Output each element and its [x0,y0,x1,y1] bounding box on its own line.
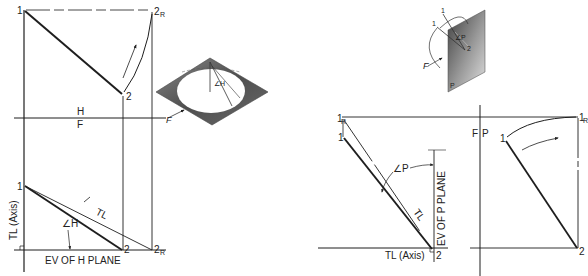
label-point-1-side: 1 [500,133,506,144]
angle-p-leader-right [410,165,433,168]
label-point-2r-sub-front: R [160,249,165,256]
pictorial-angle-label: ∠H [214,80,225,87]
fold-line-fp: F P [472,105,489,276]
line-1r-2-true-length [344,120,432,249]
front-view-right: 1 R 1 2 ∠P TL EV OF P PLANE TL (Axis) [318,113,448,262]
label-point-1-top: 1 [17,5,23,16]
left-figure: 1 2 2 R H F ∠H F [8,5,268,272]
right-figure: 1 1 2 ∠P F P F P 1 [318,7,588,276]
pictorial-direction-label: F [166,115,172,125]
revolution-arc [124,14,152,92]
line-1-2r-true-length [25,186,152,250]
axis-label: TL (Axis) [8,200,19,240]
pictorial-label-2: 2 [467,45,471,52]
line-1-2-top [25,11,122,94]
rotation-arrow-icon-right [522,138,558,150]
ev-h-plane-label: EV OF H PLANE [45,255,121,266]
label-point-2-top: 2 [126,91,132,102]
angle-tick [84,197,90,202]
fold-label-p: P [482,128,489,139]
rotation-arrow-icon [123,45,136,78]
front-view: 1 2 2 R TL ∠H TL (Axis) EV OF H PLANE [8,181,166,266]
line-1-2-front-right [344,138,432,249]
fold-line-hf: H F [14,106,166,130]
tl-label: TL [94,206,110,221]
pictorial-label-1: 1 [432,20,436,27]
label-point-2-front-right: 2 [436,250,442,261]
label-point-1r-sub-front: R [341,118,346,125]
pictorial-horizontal-plate: ∠H F [156,58,268,125]
angle-h-label: ∠H [62,218,78,229]
label-point-2-front: 2 [124,244,130,255]
revolution-arc-right [507,117,576,137]
pictorial-vertical-plane: 1 1 2 ∠P F P [423,7,485,92]
angle-h-leader-arrow [68,230,70,249]
plane-p-label: P [450,82,455,89]
pictorial-direction-label-right: F [423,61,429,71]
fold-label-f: F [77,119,83,130]
ev-p-plane-label: EV OF P PLANE [436,171,447,246]
pictorial-label-1r: 1 [441,7,445,14]
top-view: 1 2 2 R [17,5,165,272]
angle-p-label: ∠P [393,163,409,174]
direction-arrow-icon-right [428,58,442,66]
axis-label-right: TL (Axis) [385,250,425,261]
fold-label-f: F [472,128,478,139]
descriptive-geometry-diagram: 1 2 2 R H F ∠H F [0,0,588,276]
label-point-1-front: 1 [17,181,23,192]
plate-opening [177,69,245,113]
label-point-1r-sub-side: R [583,117,588,124]
tl-label-right: TL [411,207,427,223]
line-1-2-side [506,141,577,248]
pictorial-angle-label: ∠P [455,34,466,41]
label-point-2-side: 2 [579,246,585,257]
label-point-2r-sub-top: R [160,11,165,18]
label-point-1-front-right: 1 [338,132,344,143]
fold-label-h: H [77,106,84,117]
